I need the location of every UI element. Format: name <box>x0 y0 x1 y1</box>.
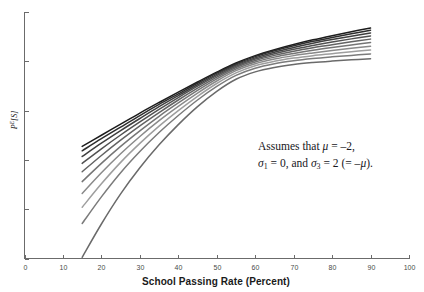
x-tick-label: 60 <box>252 264 260 271</box>
annotation-prefix: Assumes that <box>258 140 323 152</box>
x-tick-label: 0 <box>24 264 28 271</box>
x-tick-label: 100 <box>404 264 416 271</box>
x-tick-label: 70 <box>291 264 299 271</box>
x-tick-label: 10 <box>60 264 68 271</box>
x-tick-labels: 0102030405060708090100 <box>24 264 416 271</box>
x-axis-title: School Passing Rate (Percent) <box>142 276 290 287</box>
annotation-line-2: σ1 = 0, and σ3 = 2 (= –μ). <box>258 155 373 172</box>
y-axis-title: PE[S] <box>9 111 19 131</box>
y-axis-title-group: PE[S] <box>9 111 19 131</box>
x-tick-label: 20 <box>98 264 106 271</box>
annotation-mu-value: = –2, <box>328 140 355 152</box>
annotation-line-1: Assumes that μ = –2, <box>258 138 373 155</box>
x-tick-label: 30 <box>137 264 145 271</box>
annotation-sigma1-value: = 0, and <box>268 157 311 169</box>
annotation-closing: ). <box>366 157 373 169</box>
chart-annotation: Assumes that μ = –2, σ1 = 0, and σ3 = 2 … <box>258 138 373 172</box>
x-tick-label: 80 <box>329 264 337 271</box>
x-tick-label: 90 <box>368 264 376 271</box>
y-axis-title-tail: [S] <box>10 111 19 121</box>
x-tick-label: 40 <box>175 264 183 271</box>
annotation-sigma3-value: = 2 (= – <box>321 157 361 169</box>
figure-container: 0102030405060708090100 School Passing Ra… <box>0 0 424 292</box>
x-tick-label: 50 <box>214 264 222 271</box>
